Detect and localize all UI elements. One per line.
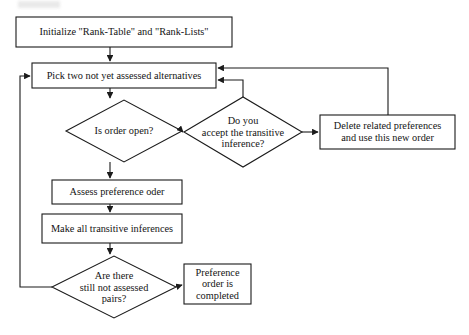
edge-accept-inference-to-pick-two	[218, 80, 243, 97]
node-still-not-assessed	[52, 256, 176, 318]
node-preference-completed	[184, 264, 251, 304]
edge-still-not-assessed-to-preference-completed	[176, 285, 182, 287]
edge-is-order-open-to-accept-inference-arrow	[182, 131, 183, 132]
flowchart-canvas	[0, 0, 469, 335]
flowchart-figure: Initialize "Rank-Table" and "Rank-Lists"…	[0, 0, 469, 335]
node-is-order-open	[66, 100, 182, 162]
edge-still-not-assessed-to-pick-two	[20, 76, 52, 287]
node-accept-inference	[184, 97, 302, 167]
node-make-inferences	[42, 214, 182, 243]
node-pick-two	[32, 63, 216, 88]
node-initialize	[16, 17, 232, 47]
node-delete-preferences	[320, 115, 455, 149]
node-assess-preference	[52, 180, 182, 204]
